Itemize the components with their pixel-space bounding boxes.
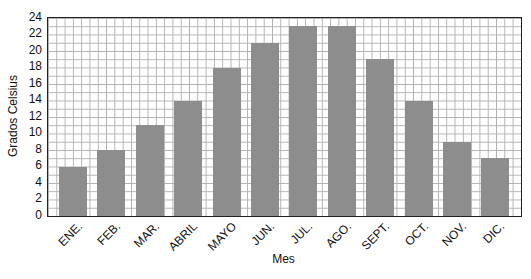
y-tick-label: 18 bbox=[14, 60, 42, 73]
y-tick-label: 14 bbox=[14, 93, 42, 106]
y-tick-label: 10 bbox=[14, 126, 42, 139]
bar-feb bbox=[97, 150, 125, 216]
bar-oct bbox=[405, 101, 433, 217]
bar-dic bbox=[481, 158, 509, 216]
y-tick-label: 4 bbox=[14, 176, 42, 189]
x-axis-title: Mes bbox=[47, 252, 520, 266]
y-tick-label: 8 bbox=[14, 143, 42, 156]
y-tick-label: 6 bbox=[14, 159, 42, 172]
y-tick-label: 0 bbox=[14, 209, 42, 222]
y-tick-label: 2 bbox=[14, 192, 42, 205]
bar-nov bbox=[443, 142, 471, 216]
y-tick-label: 20 bbox=[14, 44, 42, 57]
y-tick-label: 24 bbox=[14, 11, 42, 24]
bar-jul bbox=[289, 26, 317, 216]
bar-ago bbox=[328, 26, 356, 216]
bar-ene bbox=[59, 167, 87, 217]
bar-abril bbox=[174, 101, 202, 217]
plot-area bbox=[47, 17, 522, 217]
bar-sept bbox=[366, 59, 394, 216]
y-tick-label: 22 bbox=[14, 27, 42, 40]
bar-jun bbox=[251, 43, 279, 216]
y-tick-label: 16 bbox=[14, 77, 42, 90]
bar-mar bbox=[136, 125, 164, 216]
temperature-bar-chart: Grados Celsius 024681012141618202224 ENE… bbox=[0, 0, 531, 279]
bar-mayo bbox=[213, 68, 241, 217]
y-tick-label: 12 bbox=[14, 110, 42, 123]
